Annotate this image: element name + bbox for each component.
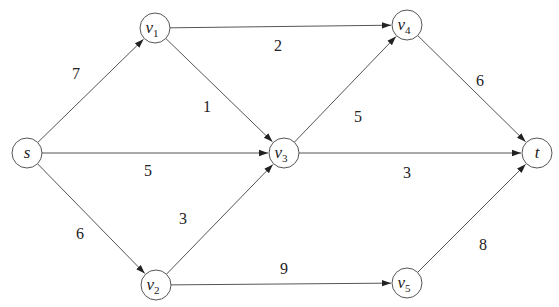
- edge-s-v2: [37, 164, 144, 274]
- node-subscript: 4: [405, 24, 411, 36]
- edge-v1-v4: [170, 25, 391, 28]
- nodes-group: sv1v2v3v4v5t: [12, 10, 552, 300]
- edge-v5-t: [418, 164, 526, 272]
- edge-weight-label: 2: [274, 37, 282, 54]
- edge-weight-label: 5: [144, 162, 152, 179]
- edge-v1-v3: [166, 38, 273, 141]
- node-label: s: [24, 143, 31, 162]
- edge-v3-v4: [294, 37, 396, 143]
- node-v5: v5: [392, 268, 422, 298]
- node-v2: v2: [141, 270, 171, 300]
- edge-v4-t: [418, 36, 526, 142]
- edge-s-v1: [38, 39, 144, 142]
- node-subscript: 5: [405, 282, 411, 294]
- node-subscript: 3: [282, 152, 288, 164]
- edge-weight-label: 7: [72, 65, 80, 82]
- edge-weight-label: 5: [354, 108, 362, 125]
- node-t: t: [522, 138, 552, 168]
- edge-weight-label: 8: [479, 236, 487, 253]
- edge-weight-label: 1: [203, 98, 211, 115]
- edge-weight-label: 6: [76, 225, 84, 242]
- node-subscript: 2: [154, 284, 160, 296]
- node-v4: v4: [392, 10, 422, 40]
- node-subscript: 1: [153, 27, 159, 39]
- edge-weight-label: 3: [179, 210, 187, 227]
- node-v3: v3: [269, 138, 299, 168]
- flow-network-diagram: 75621395368 sv1v2v3v4v5t: [0, 0, 559, 307]
- edge-weight-label: 3: [403, 164, 411, 181]
- edge-weight-label: 9: [280, 260, 288, 277]
- edge-v2-v5: [171, 283, 391, 285]
- node-v1: v1: [140, 13, 170, 43]
- edge-weight-label: 6: [476, 72, 484, 89]
- node-s: s: [12, 138, 42, 168]
